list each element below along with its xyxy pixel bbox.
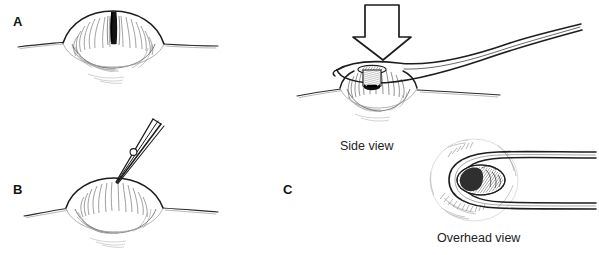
figure-container: A B C Side view Overhead view: [0, 0, 599, 255]
panel-b-group: [24, 119, 218, 247]
panel-label-c: C: [283, 183, 293, 196]
caption-overhead-view: Overhead view: [437, 232, 520, 245]
base-shading-c: [355, 114, 390, 121]
base-shading-a: [88, 74, 124, 83]
panel-label-a: A: [13, 15, 23, 28]
caption-side-view: Side view: [340, 140, 394, 153]
illustration-canvas: [0, 0, 599, 255]
skin-lesion-b: [66, 178, 163, 236]
extruded-core-overhead-icon: [457, 165, 505, 195]
needle-icon: [116, 119, 164, 184]
panel-label-b: B: [13, 183, 23, 196]
panel-a-group: [18, 11, 218, 83]
panel-d-overhead-group: [427, 138, 596, 221]
panel-c-side-group: [297, 5, 582, 121]
down-arrow-icon: [353, 5, 411, 60]
base-shading-b: [90, 238, 126, 247]
